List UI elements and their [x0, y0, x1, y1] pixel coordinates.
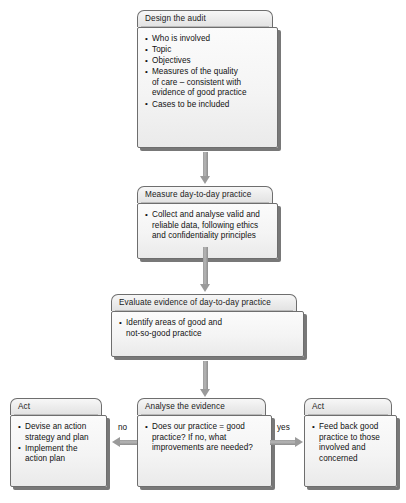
node-act-right-header: Act	[304, 398, 392, 415]
arrow-head-down-icon	[200, 389, 210, 397]
node-act-left-header: Act	[10, 398, 102, 415]
arrow-analyse-to-act-left	[112, 438, 140, 447]
list-item-line: not-so-good practice	[126, 329, 297, 340]
list-item-line: Devise an action	[25, 422, 100, 433]
arrow-measure-to-evaluate	[201, 247, 210, 292]
node-act-left-body: Devise an action strategy and plan Imple…	[10, 415, 107, 487]
list-item-line: Implement the	[25, 444, 100, 455]
list-item-line: Who is involved	[152, 34, 271, 45]
node-act-right-body: Feed back good practice to those involve…	[304, 415, 397, 487]
node-act-left-list: Devise an action strategy and plan Imple…	[18, 422, 100, 465]
list-item-line: practice? If no, what	[152, 433, 265, 444]
list-item-line: evidence of good practice	[152, 88, 271, 99]
list-item: Topic	[145, 45, 271, 56]
node-measure-day-to-day-practice-list: Collect and analyse valid and reliable d…	[145, 210, 271, 242]
list-item: Identify areas of good and not-so-good p…	[119, 318, 297, 339]
list-item: Measures of the quality of care – consis…	[145, 67, 271, 99]
list-item-line: of care – consistent with	[152, 78, 271, 89]
list-item-line: Collect and analyse valid and	[152, 210, 271, 221]
arrow-head-right-icon	[295, 437, 303, 447]
list-item-line: Feed back good	[319, 422, 390, 433]
list-item: Objectives	[145, 56, 271, 67]
list-item-line: concerned	[319, 454, 390, 465]
arrow-shaft	[270, 440, 297, 445]
node-act-right-list: Feed back good practice to those involve…	[312, 422, 390, 464]
list-item-line: practice to those	[319, 433, 390, 444]
edge-label-yes: yes	[277, 424, 290, 432]
node-evaluate-evidence-header: Evaluate evidence of day-to-day practice	[111, 294, 297, 311]
list-item-line: Measures of the quality	[152, 67, 271, 78]
list-item: Cases to be included	[145, 100, 271, 111]
edge-label-no: no	[118, 424, 127, 432]
arrow-evaluate-to-analyse	[201, 361, 210, 397]
arrow-design-to-measure	[201, 152, 210, 184]
node-evaluate-evidence-body: Identify areas of good and not-so-good p…	[111, 311, 304, 357]
arrow-shaft	[203, 361, 208, 390]
arrow-shaft	[203, 152, 208, 177]
list-item: Feed back good practice to those involve…	[312, 422, 390, 464]
list-item-line: and confidentiality principles	[152, 231, 271, 242]
list-item: Does our practice = good practice? If no…	[145, 422, 265, 454]
list-item-line: action plan	[25, 454, 100, 465]
node-analyse-the-evidence-list: Does our practice = good practice? If no…	[145, 422, 265, 454]
list-item-line: improvements are needed?	[152, 443, 265, 454]
arrow-head-down-icon	[200, 284, 210, 292]
node-design-the-audit-list: Who is involved Topic Objectives Measure…	[145, 34, 271, 110]
list-item: Collect and analyse valid and reliable d…	[145, 210, 271, 242]
node-measure-day-to-day-practice-header: Measure day-to-day practice	[137, 186, 273, 203]
list-item-line: strategy and plan	[25, 433, 100, 444]
flowchart-canvas: Design the audit Who is involved Topic O…	[0, 0, 406, 503]
node-evaluate-evidence-list: Identify areas of good and not-so-good p…	[119, 318, 297, 339]
list-item-line: Identify areas of good and	[126, 318, 297, 329]
list-item: Who is involved	[145, 34, 271, 45]
arrow-analyse-to-act-right	[270, 438, 303, 447]
arrow-head-down-icon	[200, 176, 210, 184]
list-item-line: Topic	[152, 45, 271, 56]
node-design-the-audit-body: Who is involved Topic Objectives Measure…	[137, 27, 278, 148]
node-analyse-the-evidence-header: Analyse the evidence	[137, 398, 266, 415]
arrow-head-left-icon	[112, 437, 120, 447]
list-item-line: Does our practice = good	[152, 422, 265, 433]
node-design-the-audit-header: Design the audit	[137, 10, 273, 27]
node-analyse-the-evidence-body: Does our practice = good practice? If no…	[137, 415, 272, 487]
list-item: Devise an action strategy and plan	[18, 422, 100, 443]
list-item-line: involved and	[319, 443, 390, 454]
list-item: Implement the action plan	[18, 444, 100, 465]
list-item-line: reliable data, following ethics	[152, 221, 271, 232]
arrow-shaft	[203, 247, 208, 285]
list-item-line: Objectives	[152, 56, 271, 67]
list-item-line: Cases to be included	[152, 100, 271, 111]
